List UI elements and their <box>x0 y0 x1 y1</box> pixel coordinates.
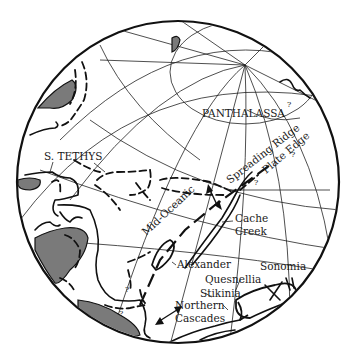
label-quesnellia: Quesnellia <box>205 273 261 285</box>
label-cache: Cache <box>235 212 268 224</box>
terrane-alexander <box>152 240 174 270</box>
landmass-northeast-edge <box>172 36 180 52</box>
uncertainty-mark: ? <box>291 150 295 159</box>
label-sonomia: Sonomia <box>260 260 306 272</box>
uncertainty-mark: ? <box>119 309 123 318</box>
label-alexander: Alexander <box>176 258 232 270</box>
label-s-tethys: S. TETHYS <box>44 150 102 162</box>
dashed-boundaries <box>52 62 232 309</box>
label-panthalassa: PANTHALASSA <box>202 107 285 119</box>
uncertainty-mark: ? <box>254 178 258 187</box>
paleogeographic-globe-map: PANTHALASSA S. TETHYS Spreading Ridge Pl… <box>0 0 346 357</box>
uncertainty-mark: ? <box>125 285 129 294</box>
uncertainty-mark: ? <box>287 100 291 109</box>
label-northern: Northern <box>175 299 225 311</box>
label-cascades: Cascades <box>175 312 225 324</box>
label-creek: Creek <box>235 225 267 237</box>
label-mid-oceanic: Mid-Oceanic <box>139 183 197 238</box>
label-stikinia: Stikinia <box>200 287 241 299</box>
landmass-west-small <box>18 178 40 190</box>
land-masses <box>18 36 180 336</box>
globe-outline <box>17 21 339 343</box>
